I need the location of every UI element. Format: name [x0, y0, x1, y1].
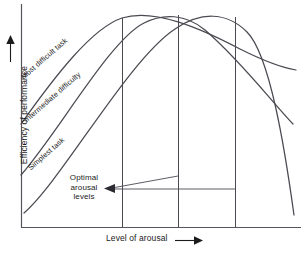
- yerkes-dodson-figure: Efficiency of performance Level of arous…: [0, 0, 304, 255]
- callout-line-1: Optimal: [59, 173, 109, 183]
- callout-leader-upper: [112, 176, 178, 188]
- callout-line-3: levels: [59, 192, 109, 202]
- x-axis-title: Level of arousal: [106, 233, 168, 243]
- plot-canvas: [0, 0, 304, 255]
- arrow-up-icon: [6, 35, 14, 44]
- callout-line-2: arousal: [59, 183, 109, 193]
- optimal-arousal-callout: Optimal arousal levels: [59, 173, 109, 202]
- curve-most-difficult-task: [21, 15, 296, 124]
- arrow-right-icon: [194, 236, 203, 244]
